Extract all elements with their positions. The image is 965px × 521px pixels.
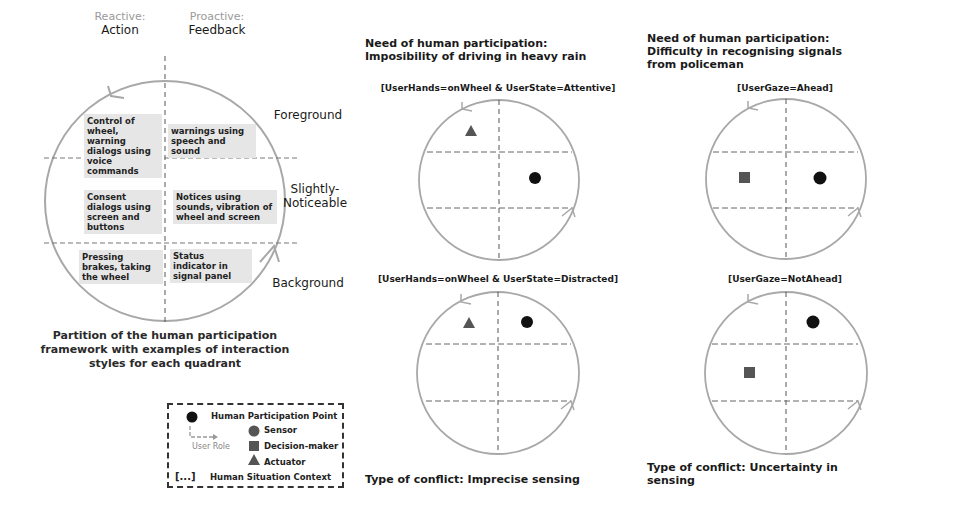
quadrant-foreground-action: Control of wheel, warning dialogs using … [84, 114, 162, 178]
legend-brackets-icon: [...] [175, 471, 196, 482]
human-participation-point-icon [529, 172, 541, 184]
level-noticeable: Noticeable [280, 196, 350, 210]
column-kind-proactive: Proactive: [172, 10, 262, 23]
column-name-feedback: Feedback [172, 23, 262, 37]
human-participation-point-icon [814, 172, 827, 185]
quadrant-background-feedback: Status indicator in signal panel [170, 249, 252, 283]
quadrant-slightly-action: Consent dialogs using screen and buttons [84, 190, 162, 234]
panel1-title-line2: Imposibility of driving in heavy rain [365, 51, 586, 63]
column-name-action: Action [75, 23, 165, 37]
panel1-conflict: Type of conflict: Imprecise sensing [365, 474, 580, 486]
panel2-title-line2: Difficulty in recognising signals [647, 46, 842, 58]
legend-actuator: Actuator [264, 457, 306, 467]
legend-sensor: Sensor [264, 425, 297, 435]
panel1-context-bottom: [UserHands=onWheel & UserState=Distracte… [356, 274, 640, 284]
panel1-top-circle [419, 100, 579, 260]
panel2-bottom-circle [705, 292, 867, 454]
level-background: Background [268, 276, 348, 290]
actuator-icon [465, 125, 477, 136]
panel2-conflict-line2: sensing [647, 475, 695, 487]
legend-decision-maker: Decision-maker [264, 441, 338, 451]
legend-human-participation-point: Human Participation Point [211, 411, 337, 421]
quadrant-foreground-feedback: warnings using speech and sound [168, 124, 256, 158]
level-slightly: Slightly- [280, 182, 350, 196]
decision-maker-icon [739, 172, 750, 183]
panel2-title-line1: Need of human participation: [647, 33, 829, 45]
panel1-title-line1: Need of human participation: [365, 38, 547, 50]
panel2-top-circle [706, 99, 866, 259]
actuator-icon [463, 317, 475, 328]
framework-caption: Partition of the human participation fra… [40, 329, 290, 371]
panel2-conflict-line1: Type of conflict: Uncertainty in [647, 462, 838, 474]
decision-maker-icon [744, 367, 755, 378]
panel2-title-line3: from policeman [647, 59, 744, 71]
panel1-context-top: [UserHands=onWheel & UserState=Attentive… [356, 83, 640, 93]
human-participation-point-icon [807, 316, 820, 329]
panel2-context-top: [UserGaze=Ahead] [643, 83, 927, 93]
legend-human-situation-context: Human Situation Context [210, 472, 331, 482]
panel2-context-bottom: [UserGaze=NotAhead] [643, 274, 927, 284]
legend-user-role: User Role [192, 442, 230, 451]
column-kind-reactive: Reactive: [75, 10, 165, 23]
quadrant-background-action: Pressing brakes, taking the wheel [79, 250, 163, 284]
panel1-bottom-circle [417, 292, 579, 454]
human-participation-point-icon [521, 316, 533, 328]
quadrant-slightly-feedback: Notices using sounds, vibration of wheel… [173, 190, 277, 224]
level-foreground: Foreground [268, 108, 348, 122]
